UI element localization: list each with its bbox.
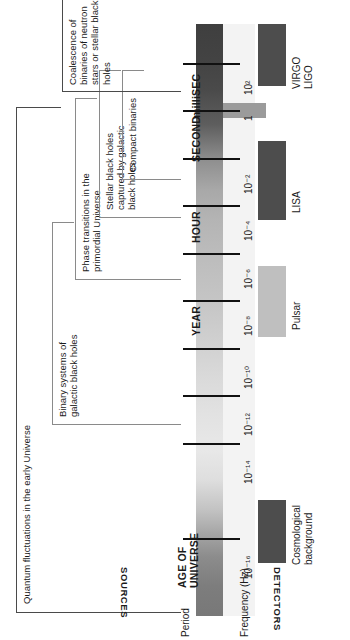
source-label-line4: holes bbox=[101, 1, 112, 85]
bracket-compact-binaries-arm-bottom bbox=[122, 179, 181, 180]
freq-tick-label: 10⁻⁶ bbox=[243, 269, 255, 289]
period-tick-label-second: SECOND bbox=[190, 116, 202, 162]
detector-box-virgo-ligo bbox=[258, 24, 286, 86]
period-tick-label-millisec: milliSEC bbox=[190, 74, 202, 118]
period-tick-label-year: YEAR bbox=[190, 306, 202, 336]
bracket-binary-galactic-arm-bottom bbox=[52, 424, 181, 425]
period-tick-label-age-of-universe: AGE OF UNIVERSE bbox=[176, 533, 201, 588]
bracket-quantum-fluctuations-arm-bottom bbox=[16, 612, 181, 613]
detector-box-pulsar bbox=[258, 266, 286, 337]
bracket-phase-transitions-arm-top bbox=[75, 98, 97, 99]
bracket-coalescence-arm-bottom bbox=[62, 91, 181, 92]
freq-tick-label: 10² bbox=[243, 81, 255, 95]
source-label-line1: Stellar black holes bbox=[104, 126, 115, 211]
tick-mark bbox=[183, 443, 240, 445]
frequency-axis-title: Frequency (Hz) bbox=[239, 568, 251, 637]
tick-mark bbox=[183, 300, 240, 302]
detector-label-lisa: LISA bbox=[291, 191, 303, 213]
freq-tick-label: 10⁻¹² bbox=[243, 413, 255, 436]
period-axis-title: Period bbox=[180, 608, 192, 637]
freq-tick-label: 10⁻⁴ bbox=[243, 221, 255, 241]
freq-tick-label: 10⁻¹⁴ bbox=[243, 460, 255, 484]
tick-mark bbox=[183, 348, 240, 350]
bracket-stellar-captured-arm-bottom bbox=[99, 217, 181, 218]
bracket-binary-galactic-arm-top bbox=[52, 222, 74, 223]
source-label-coalescence: Coalescence of binaries of neutron stars… bbox=[67, 1, 112, 85]
period-tick-label-hour: HOUR bbox=[190, 211, 202, 243]
source-label-line2: captured by galactic bbox=[115, 126, 126, 211]
bracket-phase-transitions-arm-bottom bbox=[75, 279, 181, 280]
tick-mark bbox=[183, 63, 240, 65]
source-label-line1: Phase transitions in the bbox=[80, 173, 91, 272]
source-label-quantum-fluctuations: Quantum fluctuations in the early Univer… bbox=[21, 425, 32, 604]
freq-tick-label: 10⁻² bbox=[243, 175, 255, 194]
bracket-phase-transitions-spine bbox=[75, 98, 76, 280]
freq-tick-label: 10⁻¹⁰ bbox=[243, 366, 255, 389]
detectors-section-title: DETECTORS bbox=[272, 567, 283, 631]
bracket-coalescence-spine bbox=[62, 0, 63, 92]
detector-box-lisa bbox=[258, 141, 286, 220]
source-label-line2: galactic black holes bbox=[68, 335, 79, 417]
tick-mark bbox=[183, 205, 240, 207]
source-label-line2: binaries of neutron bbox=[78, 1, 89, 85]
tick-mark bbox=[183, 395, 240, 397]
tick-mark bbox=[183, 253, 240, 255]
detector-label-line2: LIGO bbox=[303, 57, 315, 89]
detector-label-line2: background bbox=[303, 505, 315, 565]
source-label-line1: Binary systems of bbox=[57, 335, 68, 417]
detector-box-cosmological-background bbox=[258, 500, 286, 563]
bracket-quantum-fluctuations-spine bbox=[16, 107, 17, 613]
source-label-line1: Coalescence of bbox=[67, 1, 78, 85]
detector-label-pulsar: Pulsar bbox=[291, 302, 303, 330]
source-label-line3: stars or stellar black bbox=[89, 1, 100, 85]
detector-label-virgo-ligo: VIRGO LIGO bbox=[291, 57, 315, 89]
detector-label-line1: Cosmological bbox=[291, 505, 303, 565]
period-tick-label-line2: UNIVERSE bbox=[188, 533, 200, 588]
bracket-compact-binaries-arm-top bbox=[122, 70, 144, 71]
source-label-compact-binaries: Compact binaries bbox=[127, 98, 138, 172]
period-tick-label-line1: AGE OF bbox=[176, 533, 188, 588]
detector-label-line1: VIRGO bbox=[291, 57, 303, 89]
freq-tick-label: 1 bbox=[243, 115, 255, 121]
bracket-quantum-fluctuations-arm-top bbox=[16, 107, 61, 108]
bracket-compact-binaries-spine bbox=[122, 70, 123, 180]
detector-label-cosmological-background: Cosmological background bbox=[291, 505, 315, 565]
sources-section-title: SOURCES bbox=[119, 567, 130, 618]
source-label-binary-galactic: Binary systems of galactic black holes bbox=[57, 335, 79, 417]
freq-tick-label: 10⁻⁸ bbox=[243, 316, 255, 336]
bracket-binary-galactic-spine bbox=[52, 222, 53, 425]
bracket-stellar-captured-spine bbox=[99, 70, 100, 218]
source-label-line2: primordial Universe bbox=[91, 173, 102, 272]
